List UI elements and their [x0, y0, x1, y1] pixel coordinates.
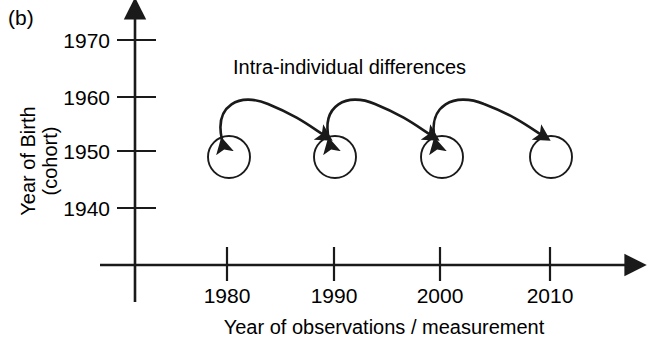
connector-1990-2000: [328, 100, 437, 140]
connector-2000-2010: [434, 100, 548, 140]
data-point-1990: [314, 136, 356, 178]
data-point-2000: [421, 136, 463, 178]
connector-1980-1990: [221, 100, 330, 140]
figure-panel-b: (b) Year of Birth (cohort) 1970 1960 195…: [0, 0, 651, 352]
data-point-2010: [530, 136, 572, 178]
data-point-1980: [208, 136, 250, 178]
x-axis-title: Year of observations / measurement: [174, 317, 594, 337]
plot-area: [0, 0, 651, 352]
